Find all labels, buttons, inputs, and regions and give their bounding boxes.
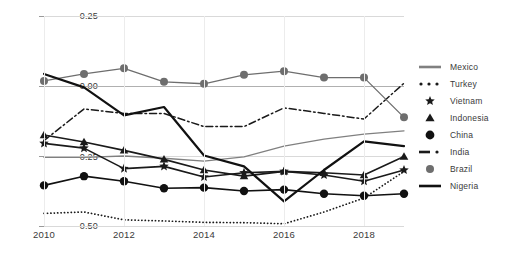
legend-item-mexico[interactable]: Mexico: [416, 58, 508, 75]
legend-item-brazil[interactable]: Brazil: [416, 160, 508, 177]
legend-label: Mexico: [450, 62, 478, 72]
dash-dot-line-icon: [416, 145, 444, 159]
series-india: [44, 83, 404, 140]
legend-label: China: [450, 130, 473, 140]
chart-container: 0.25 0.00 -0.25 -0.50 201020122014201620…: [0, 0, 510, 254]
legend-label: Vietnam: [450, 96, 482, 106]
circle-marker-icon: [416, 128, 444, 142]
x-tick-label-2014: 2014: [193, 229, 215, 240]
series-mexico: [44, 131, 404, 161]
legend-item-nigeria[interactable]: Nigeria: [416, 177, 508, 194]
gridline-x-2018: [364, 16, 365, 226]
legend-item-india[interactable]: India: [416, 143, 508, 160]
x-tick-label-2010: 2010: [33, 229, 55, 240]
gridline-x-2012: [124, 16, 125, 226]
legend-item-turkey[interactable]: Turkey: [416, 75, 508, 92]
x-tick-label-2016: 2016: [273, 229, 295, 240]
line-thick-black-icon: [416, 179, 444, 193]
series-indonesia: [40, 131, 409, 180]
line-thick-gray-icon: [416, 60, 444, 74]
series-china: [40, 172, 408, 200]
gridline-x-2016: [284, 16, 285, 226]
gray-circle-marker-icon: [416, 162, 444, 176]
chart-legend: MexicoTurkeyVietnamIndonesiaChinaIndiaBr…: [416, 58, 508, 194]
x-tick-label-2012: 2012: [113, 229, 135, 240]
legend-label: India: [450, 147, 469, 157]
legend-label: Nigeria: [450, 181, 478, 191]
legend-label: Turkey: [450, 79, 477, 89]
legend-label: Brazil: [450, 164, 472, 174]
legend-item-china[interactable]: China: [416, 126, 508, 143]
star-marker-icon: [416, 94, 444, 108]
series-layer: [44, 16, 404, 226]
plot-area: [44, 16, 404, 226]
series-nigeria: [44, 74, 404, 201]
dots-icon: [416, 77, 444, 91]
x-tick-label-2018: 2018: [353, 229, 375, 240]
series-brazil: [40, 64, 408, 121]
legend-item-vietnam[interactable]: Vietnam: [416, 92, 508, 109]
gridline--0.50: [44, 226, 404, 227]
gridline-x-2010: [44, 16, 45, 226]
legend-label: Indonesia: [450, 113, 489, 123]
triangle-marker-icon: [416, 111, 444, 125]
legend-item-indonesia[interactable]: Indonesia: [416, 109, 508, 126]
gridline-x-2014: [204, 16, 205, 226]
